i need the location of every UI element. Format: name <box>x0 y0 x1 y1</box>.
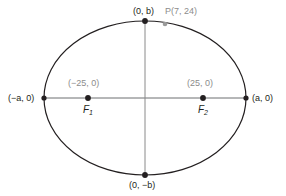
point-p-label: P(7, 24) <box>165 6 197 16</box>
focus-1-dot <box>85 95 91 101</box>
focus-1-name-subscript: 1 <box>89 109 93 116</box>
right-vertex-label: (a, 0) <box>252 93 273 103</box>
left-vertex-label: (−a, 0) <box>8 93 34 103</box>
bottom-vertex-dot <box>142 172 148 178</box>
point-p-dot <box>163 22 168 27</box>
ellipse-figure: (0, b) P(7, 24) (−a, 0) (a, 0) (−25, 0) … <box>0 0 286 196</box>
left-vertex-dot <box>41 95 46 100</box>
top-vertex-label: (0, b) <box>133 6 154 16</box>
right-vertex-dot <box>243 95 248 100</box>
ellipse-diagram-canvas <box>0 0 286 196</box>
focus-1-name-label: F1 <box>83 105 93 118</box>
focus-1-coords-label: (−25, 0) <box>68 78 99 88</box>
focus-2-name-subscript: 2 <box>204 109 208 116</box>
focus-2-coords-label: (25, 0) <box>187 78 213 88</box>
top-vertex-dot <box>142 18 148 24</box>
bottom-vertex-label: (0, −b) <box>129 180 155 190</box>
focus-2-name-label: F2 <box>198 105 208 118</box>
focus-2-dot <box>200 95 206 101</box>
